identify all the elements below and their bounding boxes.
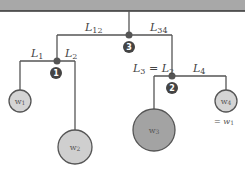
node-badge-1: 1: [50, 67, 62, 79]
node-badge-2: 2: [166, 82, 178, 94]
mobile-diagram-svg: 3 1 2 L12 L34 L1 L2 L3 = L2 L4 w1 w2 w3 …: [0, 0, 245, 170]
joint-1: [54, 58, 61, 65]
weight-w3: w3: [133, 109, 175, 151]
ceiling: [0, 0, 245, 11]
w4-equals-w1-note: = w1: [214, 117, 234, 126]
mobile-diagram: 3 1 2 L12 L34 L1 L2 L3 = L2 L4 w1 w2 w3 …: [0, 0, 245, 170]
label-L1: L1: [30, 47, 43, 61]
svg-text:w1: w1: [15, 97, 26, 106]
svg-text:w2: w2: [70, 143, 81, 152]
svg-text:w4: w4: [221, 97, 232, 106]
weight-w2: w2: [58, 130, 92, 164]
svg-text:1: 1: [53, 69, 59, 78]
weight-w4: w4: [215, 90, 237, 112]
svg-text:2: 2: [169, 84, 175, 93]
weight-w1: w1: [9, 90, 31, 112]
label-L34: L34: [149, 21, 168, 35]
label-L3-eq-L2: L3 = L2: [132, 62, 174, 76]
svg-text:3: 3: [126, 43, 132, 52]
svg-text:w3: w3: [149, 126, 160, 135]
label-L4: L4: [192, 62, 205, 76]
label-L2: L2: [64, 47, 77, 61]
label-L12: L12: [84, 21, 103, 35]
joint-3: [126, 32, 133, 39]
node-badge-3: 3: [123, 41, 135, 53]
